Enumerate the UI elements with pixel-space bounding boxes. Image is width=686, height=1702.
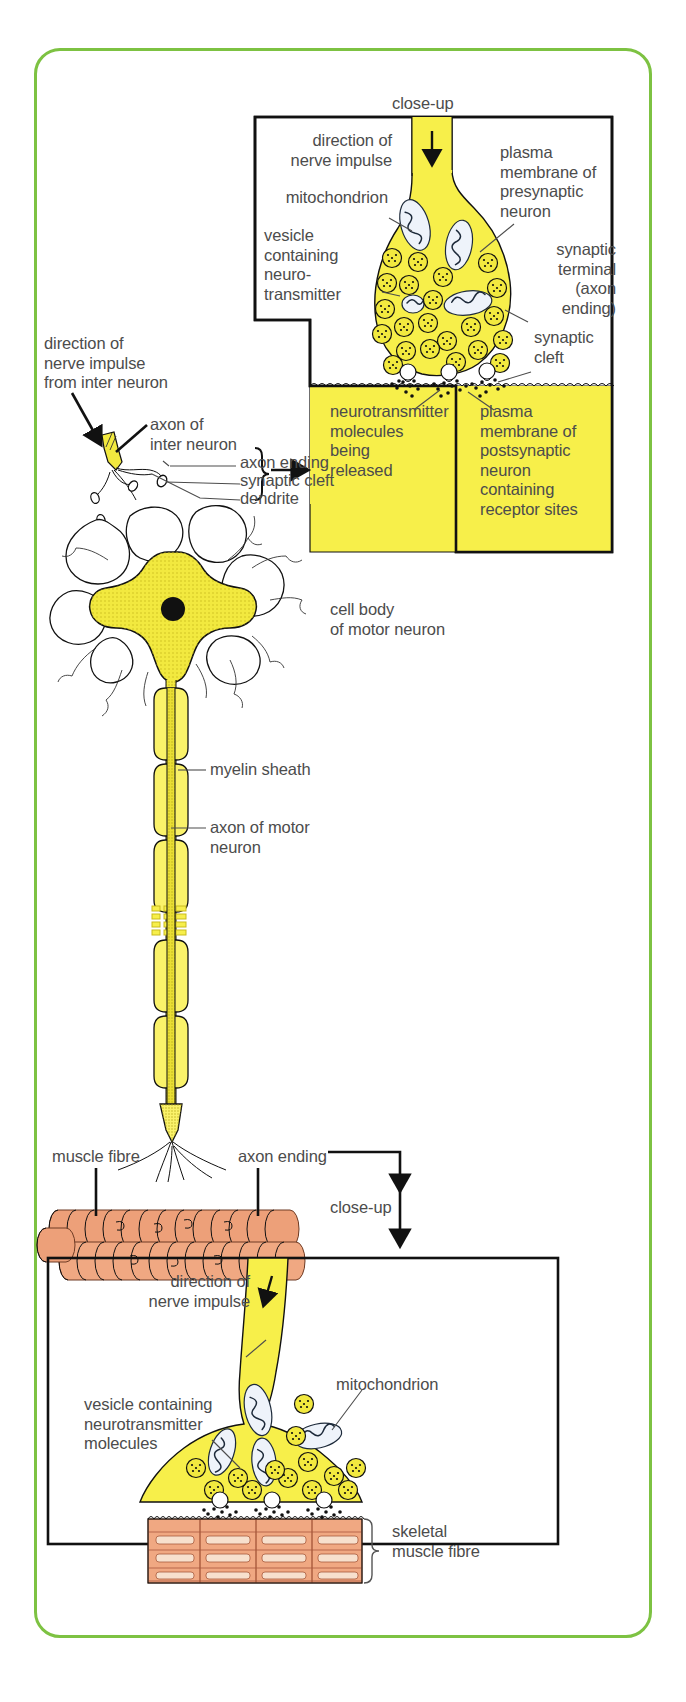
label-plasma-membrane-presynaptic: plasma membrane of presynaptic neuron <box>500 143 616 221</box>
label-muscle-fibre: muscle fibre <box>52 1147 182 1167</box>
label-mitochondrion-top: mitochondrion <box>248 188 388 208</box>
label-mitochondrion-bottom: mitochondrion <box>336 1375 496 1395</box>
label-axon-ending-lower: axon ending <box>238 1147 368 1167</box>
label-axon-of-motor-neuron: axon of motor neuron <box>210 818 380 857</box>
label-vesicle-containing-neurotransmitter-top: vesicle containing neuro- transmitter <box>264 226 384 304</box>
bottom-closeup-caption: close-up <box>330 1198 392 1218</box>
label-plasma-membrane-postsynaptic: plasma membrane of postsynaptic neuron c… <box>480 402 616 519</box>
label-myelin-sheath: myelin sheath <box>210 760 380 780</box>
label-cell-body-of-motor-neuron: cell body of motor neuron <box>330 600 520 639</box>
label-synaptic-cleft-top: synaptic cleft <box>534 328 618 367</box>
label-direction-of-nerve-impulse-top: direction of nerve impulse <box>252 131 392 170</box>
label-direction-of-nerve-impulse-from-inter-neuron: direction of nerve impulse from inter ne… <box>44 334 274 393</box>
label-skeletal-muscle-fibre: skeletal muscle fibre <box>392 1522 542 1561</box>
label-synaptic-cleft: synaptic cleft <box>240 471 380 491</box>
top-closeup-caption: close-up <box>392 94 454 114</box>
label-dendrite: dendrite <box>240 489 360 509</box>
label-direction-of-nerve-impulse-bottom: direction of nerve impulse <box>110 1272 250 1311</box>
label-axon-ending: axon ending <box>240 453 370 473</box>
label-axon-of-inter-neuron: axon of inter neuron <box>150 415 280 454</box>
diagram-page: close-up direction of nerve impulse mito… <box>0 0 686 1702</box>
label-synaptic-terminal-axon-ending: synaptic terminal (axon ending) <box>512 240 616 318</box>
label-vesicle-containing-neurotransmitter-molecules: vesicle containing neurotransmitter mole… <box>84 1395 264 1454</box>
